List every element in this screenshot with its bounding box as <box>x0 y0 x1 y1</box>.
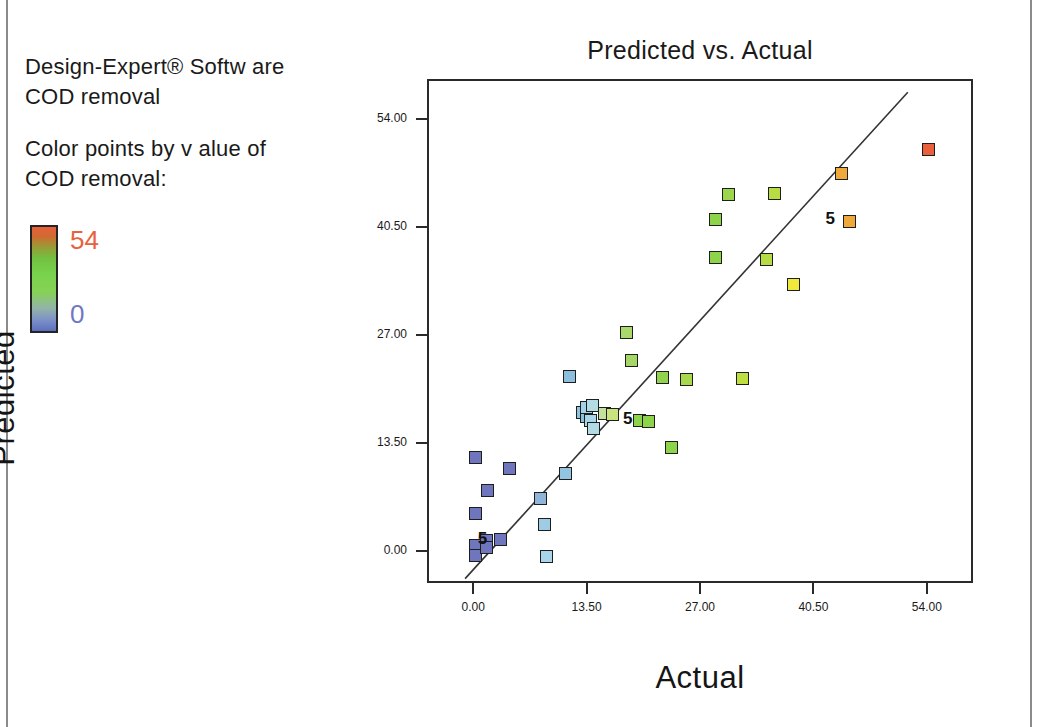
data-point <box>642 415 655 428</box>
data-point <box>656 371 669 384</box>
legend-caption-line1: Color points by v alue of <box>25 134 395 164</box>
y-tick-mark <box>416 226 427 228</box>
x-tick-mark <box>926 583 928 594</box>
x-tick-mark <box>472 583 474 594</box>
x-tick-label: 54.00 <box>887 600 967 614</box>
reference-line <box>465 92 908 578</box>
x-tick-label: 27.00 <box>660 600 740 614</box>
data-point <box>625 354 638 367</box>
data-point <box>620 326 633 339</box>
software-name: Design-Expert® Softw are <box>25 52 395 82</box>
x-tick-mark <box>812 583 814 594</box>
x-tick-label: 0.00 <box>433 600 513 614</box>
data-point <box>587 422 600 435</box>
x-tick-label: 13.50 <box>547 600 627 614</box>
x-tick-mark <box>699 583 701 594</box>
data-point <box>469 451 482 464</box>
overlap-count-label: 5 <box>826 210 835 227</box>
y-tick-label: 13.50 <box>327 435 407 449</box>
data-point <box>722 188 735 201</box>
data-point <box>835 167 848 180</box>
overlap-count-label: 5 <box>478 530 487 547</box>
y-tick-mark <box>416 118 427 120</box>
y-tick-label: 27.00 <box>327 327 407 341</box>
data-point <box>559 467 572 480</box>
x-tick-mark <box>586 583 588 594</box>
data-point <box>538 518 551 531</box>
page-edge-right <box>1030 0 1032 727</box>
data-point <box>665 441 678 454</box>
overlap-count-label: 5 <box>623 410 632 427</box>
plot-area: 555 <box>427 79 973 583</box>
data-point <box>503 462 516 475</box>
y-tick-label: 54.00 <box>327 111 407 125</box>
plot-canvas <box>429 81 975 585</box>
y-tick-mark <box>416 442 427 444</box>
data-point <box>534 492 547 505</box>
data-point <box>787 278 800 291</box>
x-axis-label: Actual <box>427 660 973 696</box>
data-point <box>494 533 507 546</box>
legend-max-value: 54 <box>70 227 99 253</box>
data-point <box>736 372 749 385</box>
data-point <box>469 507 482 520</box>
y-tick-mark <box>416 550 427 552</box>
data-point <box>540 550 553 563</box>
data-point <box>768 187 781 200</box>
y-tick-mark <box>416 334 427 336</box>
data-point <box>709 213 722 226</box>
legend-caption-line2: COD removal: <box>25 164 395 194</box>
x-tick-label: 40.50 <box>773 600 853 614</box>
chart-title: Predicted vs. Actual <box>427 36 973 65</box>
data-point <box>709 251 722 264</box>
y-tick-label: 40.50 <box>327 219 407 233</box>
data-point <box>563 370 576 383</box>
data-point <box>680 373 693 386</box>
data-point <box>843 215 856 228</box>
legend-min-value: 0 <box>70 301 84 327</box>
color-gradient-bar <box>30 225 58 333</box>
scanned-page: Design-Expert® Softw are COD removal Col… <box>0 0 1038 727</box>
y-axis-label: Predicted <box>0 268 22 528</box>
y-tick-label: 0.00 <box>327 543 407 557</box>
data-point <box>760 253 773 266</box>
data-point <box>922 143 935 156</box>
color-scale-legend: 54 0 <box>30 225 180 337</box>
data-point <box>481 484 494 497</box>
response-name: COD removal <box>25 82 395 112</box>
data-point <box>606 408 619 421</box>
